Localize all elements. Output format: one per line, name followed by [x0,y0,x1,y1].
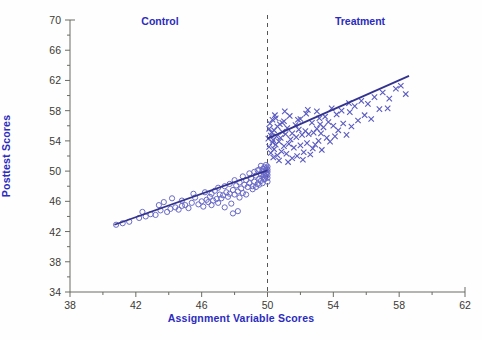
data-point-circle [169,196,174,201]
y-tick-label: 54 [49,135,61,147]
data-point-cross [287,113,292,118]
data-point-cross [372,94,377,99]
y-tick-label: 34 [49,286,61,298]
data-point-circle [201,204,206,209]
data-point-cross [280,120,285,125]
data-point-cross [327,139,332,144]
data-point-circle [230,211,235,216]
x-tick-label: 54 [327,299,339,311]
data-point-cross [368,116,373,121]
y-tick-label: 46 [49,195,61,207]
data-point-circle [156,203,161,208]
data-point-circle [161,199,166,204]
data-point-cross [298,143,303,148]
y-axis-title: Posttest Scores [0,96,12,216]
data-point-cross [326,119,331,124]
data-point-cross [288,137,293,142]
data-point-cross [284,151,289,156]
y-tick-label: 66 [49,44,61,56]
treatment-group-label: Treatment [315,15,405,27]
data-point-cross [339,108,344,113]
data-point-cross [285,159,290,164]
data-point-cross [281,143,286,148]
data-point-circle [237,195,242,200]
y-tick-label: 50 [49,165,61,177]
x-axis-title: Assignment Variable Scores [0,312,482,324]
data-point-cross [294,153,299,158]
data-point-circle [232,192,237,197]
x-tick-label: 46 [196,299,208,311]
data-point-cross [403,91,408,96]
data-point-circle [153,212,158,217]
data-point-cross [276,158,281,163]
data-point-circle [165,209,170,214]
data-point-circle [235,189,240,194]
data-point-cross [336,128,341,133]
series-treatment-points [266,83,409,165]
x-tick-label: 38 [64,299,76,311]
data-point-cross [352,103,357,108]
data-point-circle [234,183,239,188]
x-tick-label: 62 [459,299,471,311]
x-tick-label: 50 [262,299,274,311]
fit-line-control [114,170,267,224]
data-point-cross [286,141,291,146]
data-point-cross [300,157,305,162]
control-group-label: Control [120,15,200,27]
x-tick-label: 42 [130,299,142,311]
data-point-cross [331,123,336,128]
data-point-cross [334,112,339,117]
scatter-plot-canvas: 3842465054586234384246505458626670 [0,0,482,340]
data-point-circle [222,205,227,210]
fit-line-treatment [268,76,410,139]
data-point-cross [332,134,337,139]
data-point-cross [387,96,392,101]
data-point-circle [229,201,234,206]
data-point-cross [279,149,284,154]
data-point-cross [306,131,311,136]
chart-container: 3842465054586234384246505458626670 Assig… [0,0,482,340]
data-point-cross [308,152,313,157]
data-point-cross [344,132,349,137]
data-point-cross [316,138,321,143]
data-point-cross [282,109,287,114]
data-point-cross [309,120,314,125]
y-tick-label: 62 [49,74,61,86]
data-point-cross [314,109,319,114]
data-point-cross [349,124,354,129]
data-point-cross [380,90,385,95]
data-point-cross [347,109,352,114]
y-tick-label: 42 [49,226,61,238]
data-point-cross [294,134,299,139]
data-point-circle [168,206,173,211]
data-point-circle [235,209,240,214]
data-point-cross [301,150,306,155]
data-point-cross [385,106,390,111]
data-point-circle [186,206,191,211]
data-point-circle [189,200,194,205]
data-point-cross [318,131,323,136]
data-point-cross [304,140,309,145]
data-point-circle [199,199,204,204]
data-point-cross [296,127,301,132]
data-point-cross [319,147,324,152]
data-point-cross [362,113,367,118]
data-point-cross [377,106,382,111]
y-tick-label: 38 [49,256,61,268]
data-point-cross [271,147,276,152]
data-point-circle [196,202,201,207]
data-point-cross [393,86,398,91]
y-tick-label: 58 [49,105,61,117]
data-point-cross [398,83,403,88]
y-tick-label: 70 [49,14,61,26]
data-point-cross [291,145,296,150]
data-point-cross [321,125,326,130]
data-point-cross [365,101,370,106]
x-tick-label: 58 [393,299,405,311]
data-point-cross [341,121,346,126]
data-point-cross [359,98,364,103]
data-point-cross [355,118,360,123]
